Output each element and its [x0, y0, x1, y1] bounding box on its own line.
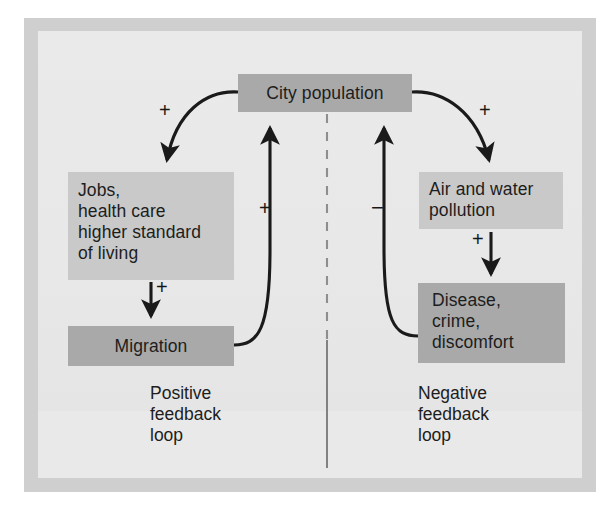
node-jobs-label: Jobs, health care higher standard of liv… [78, 180, 201, 263]
edge-sign-migration-to-city: + [259, 198, 271, 218]
node-pollution[interactable]: Air and water pollution [419, 172, 563, 229]
node-city-population-label: City population [266, 83, 383, 104]
diagram-screenshot: City population Jobs, health care higher… [0, 0, 615, 518]
node-disease[interactable]: Disease, crime, discomfort [418, 283, 565, 363]
node-migration-label: Migration [115, 336, 188, 357]
node-pollution-label: Air and water pollution [429, 179, 533, 220]
node-migration[interactable]: Migration [68, 326, 234, 366]
edge-sign-pollution-to-disease: + [472, 229, 484, 249]
node-jobs[interactable]: Jobs, health care higher standard of liv… [68, 172, 234, 280]
caption-negative-feedback-loop: Negative feedback loop [418, 383, 489, 446]
edge-sign-city-to-pollution: + [479, 100, 491, 120]
node-city-population[interactable]: City population [238, 74, 412, 112]
node-disease-label: Disease, crime, discomfort [432, 290, 514, 352]
edge-sign-city-to-jobs: + [159, 100, 171, 120]
edge-sign-jobs-to-migration: + [156, 277, 168, 297]
edge-sign-disease-to-city: − [371, 197, 384, 219]
caption-positive-feedback-loop: Positive feedback loop [150, 383, 221, 446]
